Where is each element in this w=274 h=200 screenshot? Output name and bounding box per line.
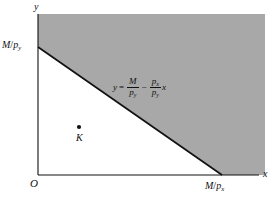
equation-variable: x	[162, 83, 166, 92]
y-axis-label: y	[34, 2, 38, 12]
equation-equals: =	[119, 83, 124, 92]
equation-term1-fraction: Mpy	[127, 77, 139, 98]
equation-term1-denominator: py	[127, 88, 139, 98]
y-intercept-denominator-subscript: y	[18, 44, 21, 51]
plot-canvas	[0, 0, 274, 200]
point-k-label: K	[76, 133, 83, 143]
x-intercept-label: M/px	[205, 181, 224, 193]
equation-term2-denominator: py	[150, 88, 161, 98]
x-axis-label: x	[263, 169, 267, 179]
point-k-marker	[77, 125, 81, 129]
equation-term2-denominator-subscript: y	[156, 92, 159, 98]
equation-term1-denominator-subscript: y	[134, 91, 137, 97]
budget-line-equation: y=Mpy−pxpyx	[113, 77, 166, 98]
equation-term2-fraction: pxpy	[150, 77, 161, 98]
equation-lhs: y	[113, 83, 117, 92]
equation-term2-numerator-subscript: x	[156, 81, 159, 87]
budget-constraint-figure: y x O M/py M/px K y=Mpy−pxpyx	[0, 0, 274, 200]
equation-minus: −	[142, 83, 147, 92]
y-intercept-label: M/py	[2, 40, 21, 52]
origin-label: O	[30, 178, 38, 189]
x-intercept-denominator-subscript: x	[221, 185, 224, 192]
